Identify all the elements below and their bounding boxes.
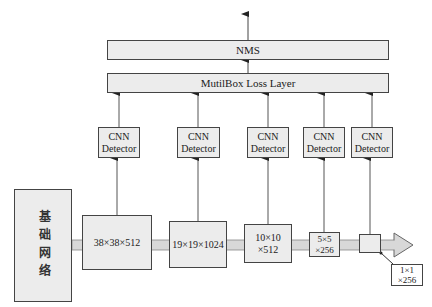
cnn-detector-5: CNN Detector	[351, 127, 393, 158]
feature-map-38: 38×38×512	[82, 215, 152, 270]
cnn-detector-1: CNN Detector	[98, 127, 140, 158]
base-network: 基础网络	[14, 189, 72, 302]
nms-layer: NMS	[107, 40, 389, 60]
feature-map-1-callout: 1×1 ×256	[391, 264, 423, 286]
feature-map-10: 10×10 ×512	[244, 224, 292, 263]
multibox-loss-layer: MutilBox Loss Layer	[107, 73, 389, 93]
base-network-label: 基础网络	[36, 210, 50, 282]
feature-map-19: 19×19×1024	[169, 221, 227, 268]
cnn-detector-3: CNN Detector	[247, 127, 289, 158]
feature-map-1	[359, 234, 381, 253]
feature-map-5: 5×5 ×256	[309, 232, 340, 257]
cnn-detector-2: CNN Detector	[177, 127, 220, 158]
cnn-detector-4: CNN Detector	[303, 127, 345, 158]
